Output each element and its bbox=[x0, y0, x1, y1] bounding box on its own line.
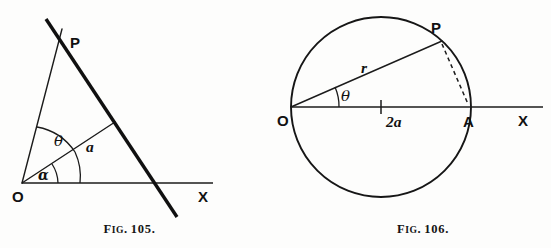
label-point-p-105: P bbox=[70, 34, 80, 51]
figure-page: P O X θ α a FIG.105. P bbox=[0, 0, 551, 248]
figure-105-drawing: P O X θ α a bbox=[0, 0, 275, 222]
theta-arc-106 bbox=[335, 87, 339, 107]
label-diameter-2a-106: 2a bbox=[385, 113, 402, 130]
label-angle-theta-106: θ bbox=[341, 87, 350, 105]
thick-line-105 bbox=[46, 19, 177, 217]
caption-number-105: 105. bbox=[131, 222, 156, 236]
label-point-a-106: A bbox=[463, 113, 474, 130]
label-point-p-106: P bbox=[431, 19, 441, 36]
caption-smallcaps-105: IG bbox=[112, 224, 124, 235]
alpha-arc-outer-105 bbox=[75, 152, 80, 183]
caption-number-106: 106. bbox=[424, 222, 449, 236]
figure-106: P O A X θ r 2a FIG.106. bbox=[275, 0, 551, 248]
figure-106-caption: FIG.106. bbox=[285, 222, 551, 237]
label-angle-theta-105: θ bbox=[54, 132, 63, 150]
figure-105: P O X θ α a FIG.105. bbox=[0, 0, 275, 248]
figure-105-caption: FIG.105. bbox=[0, 222, 267, 237]
label-origin-106: O bbox=[277, 112, 289, 129]
label-length-a-105: a bbox=[86, 138, 94, 155]
label-axis-x-106: X bbox=[518, 112, 528, 129]
figure-106-drawing: P O A X θ r 2a bbox=[275, 0, 551, 222]
label-origin-105: O bbox=[12, 188, 24, 205]
label-radius-r-106: r bbox=[361, 59, 368, 76]
label-angle-alpha-105: α bbox=[38, 167, 49, 183]
caption-prefix-105: F bbox=[103, 222, 111, 236]
alpha-arc-inner-105 bbox=[52, 164, 58, 183]
label-axis-x-105: X bbox=[198, 188, 208, 205]
caption-smallcaps-106: IG bbox=[405, 224, 417, 235]
